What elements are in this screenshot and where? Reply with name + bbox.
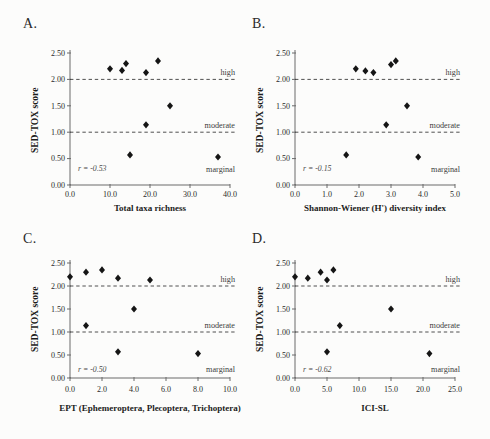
data-point <box>115 348 121 355</box>
data-point <box>330 266 336 273</box>
threshold-label-moderate: moderate <box>430 121 461 130</box>
y-axis-title: SED-TOX score <box>255 259 265 379</box>
threshold-label-moderate: moderate <box>205 321 236 330</box>
threshold-label-high: high <box>445 68 460 77</box>
y-tick-label: 1.00 <box>51 328 65 337</box>
data-point <box>127 151 133 158</box>
data-point <box>83 269 89 276</box>
x-tick-label: 4.0 <box>129 385 139 394</box>
y-tick-label: 2.00 <box>276 75 290 84</box>
data-point <box>107 65 113 72</box>
data-point <box>426 350 432 357</box>
data-point <box>404 102 410 109</box>
y-tick-label: 2.50 <box>276 49 290 58</box>
data-point <box>67 273 73 280</box>
x-tick-label: 0.0 <box>65 385 75 394</box>
y-tick-label: 0.50 <box>276 154 290 163</box>
data-point <box>383 121 389 128</box>
x-tick-label: 40.0 <box>223 190 237 199</box>
data-point <box>324 276 330 283</box>
x-tick-label: 8.0 <box>193 385 203 394</box>
x-tick-label: 0.0 <box>65 190 75 199</box>
x-tick-label: 6.0 <box>161 385 171 394</box>
data-point <box>123 60 129 67</box>
threshold-label-high: high <box>220 275 235 284</box>
data-point <box>324 348 330 355</box>
data-point <box>318 269 324 276</box>
panel-letter-c: C. <box>23 231 37 247</box>
data-point <box>147 276 153 283</box>
r-value-label: r = -0.15 <box>303 164 332 173</box>
panel-letter-a: A. <box>23 16 38 32</box>
panel-letter-d: D. <box>252 231 267 247</box>
data-point <box>388 61 394 68</box>
x-tick-label: 5.0 <box>450 190 460 199</box>
data-point <box>119 67 125 74</box>
y-axis-title: SED-TOX score <box>255 55 265 185</box>
x-tick-label: 2.0 <box>97 385 107 394</box>
data-point <box>388 305 394 312</box>
panel-b: 0.000.501.001.502.002.500.01.02.03.04.05… <box>245 0 490 215</box>
y-tick-label: 0.00 <box>276 181 290 190</box>
r-value-label: r = -0.53 <box>78 164 107 173</box>
data-point <box>343 151 349 158</box>
y-tick-label: 2.50 <box>276 259 290 268</box>
x-tick-label: 10.0 <box>352 385 366 394</box>
threshold-label-high: high <box>445 275 460 284</box>
panel-letter-b: B. <box>252 16 266 32</box>
x-tick-label: 15.0 <box>384 385 398 394</box>
data-point <box>143 121 149 128</box>
y-tick-label: 0.00 <box>51 374 65 383</box>
y-tick-label: 0.50 <box>276 351 290 360</box>
data-point <box>362 67 368 74</box>
data-point <box>370 69 376 76</box>
data-point <box>292 273 298 280</box>
data-point <box>115 275 121 282</box>
data-point <box>99 266 105 273</box>
scatter-plot-b: 0.000.501.001.502.002.500.01.02.03.04.05… <box>245 0 490 215</box>
x-tick-label: 4.0 <box>418 190 428 199</box>
data-point <box>393 57 399 64</box>
data-point <box>83 322 89 329</box>
threshold-label-moderate: moderate <box>430 321 461 330</box>
y-tick-label: 0.00 <box>276 374 290 383</box>
panel-c: 0.000.501.001.502.002.500.02.04.06.08.01… <box>0 215 245 439</box>
x-axis-title: Total taxa richness <box>50 203 250 213</box>
data-point <box>131 305 137 312</box>
x-tick-label: 20.0 <box>416 385 430 394</box>
x-tick-label: 30.0 <box>183 190 197 199</box>
data-point <box>167 102 173 109</box>
x-tick-label: 25.0 <box>448 385 462 394</box>
y-tick-label: 2.50 <box>51 49 65 58</box>
y-tick-label: 2.50 <box>51 259 65 268</box>
y-axis-title: SED-TOX score <box>30 259 40 379</box>
y-tick-label: 1.50 <box>51 102 65 111</box>
data-point <box>415 153 421 160</box>
x-tick-label: 5.0 <box>322 385 332 394</box>
panel-d: 0.000.501.001.502.002.500.05.010.015.020… <box>245 215 490 439</box>
marginal-label: marginal <box>431 365 461 374</box>
data-point <box>215 153 221 160</box>
threshold-label-moderate: moderate <box>205 121 236 130</box>
marginal-label: marginal <box>431 165 461 174</box>
data-point <box>305 275 311 282</box>
x-tick-label: 2.0 <box>354 190 364 199</box>
x-axis-title: EPT (Ephemeroptera, Plecoptera, Trichopt… <box>50 403 250 413</box>
y-tick-label: 2.00 <box>51 282 65 291</box>
y-tick-label: 2.00 <box>51 75 65 84</box>
y-tick-label: 1.50 <box>276 102 290 111</box>
x-tick-label: 0.0 <box>290 385 300 394</box>
data-point <box>143 69 149 76</box>
y-tick-label: 1.00 <box>276 328 290 337</box>
figure-sheet: 0.000.501.001.502.002.500.010.020.030.04… <box>0 0 490 439</box>
x-tick-label: 0.0 <box>290 190 300 199</box>
x-tick-label: 20.0 <box>143 190 157 199</box>
marginal-label: marginal <box>206 365 236 374</box>
y-tick-label: 0.50 <box>51 351 65 360</box>
x-axis-title: ICI-SL <box>275 403 475 413</box>
data-point <box>337 322 343 329</box>
data-point <box>155 57 161 64</box>
x-tick-label: 10.0 <box>223 385 237 394</box>
threshold-label-high: high <box>220 68 235 77</box>
y-tick-label: 2.00 <box>276 282 290 291</box>
